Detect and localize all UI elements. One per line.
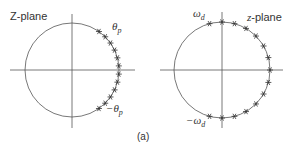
pole-marker	[231, 21, 237, 26]
left-plane-title: Z-plane	[10, 10, 47, 22]
pole-marker	[243, 109, 249, 114]
pole-marker	[108, 40, 114, 45]
pole-marker	[207, 21, 213, 26]
pole-marker	[112, 48, 118, 53]
right-plane-title: z-plane	[246, 11, 282, 23]
figure-caption: (a)	[137, 131, 149, 142]
pole-marker	[112, 87, 118, 92]
theta-p-label: θp	[112, 20, 121, 35]
left-z-plane-panel: Z-plane θp −θp	[10, 10, 135, 128]
pole-marker	[261, 91, 267, 96]
neg-theta-p-label: −θp	[106, 102, 123, 117]
omega-d-label: ωd	[193, 7, 206, 22]
pole-marker	[207, 114, 213, 119]
pole-marker	[108, 94, 114, 99]
pole-marker	[261, 43, 267, 48]
pole-marker	[114, 55, 120, 60]
pole-marker	[265, 80, 271, 85]
pole-marker	[265, 55, 271, 60]
right-z-plane-panel: ωd z-plane −ωd	[160, 7, 283, 129]
pole-marker	[243, 26, 249, 31]
pole-zero-diagram: Z-plane θp −θp ωd z-plane −ωd (a)	[0, 0, 297, 148]
neg-omega-d-label: −ωd	[186, 114, 206, 129]
pole-marker	[231, 114, 237, 119]
pole-marker	[114, 80, 120, 85]
